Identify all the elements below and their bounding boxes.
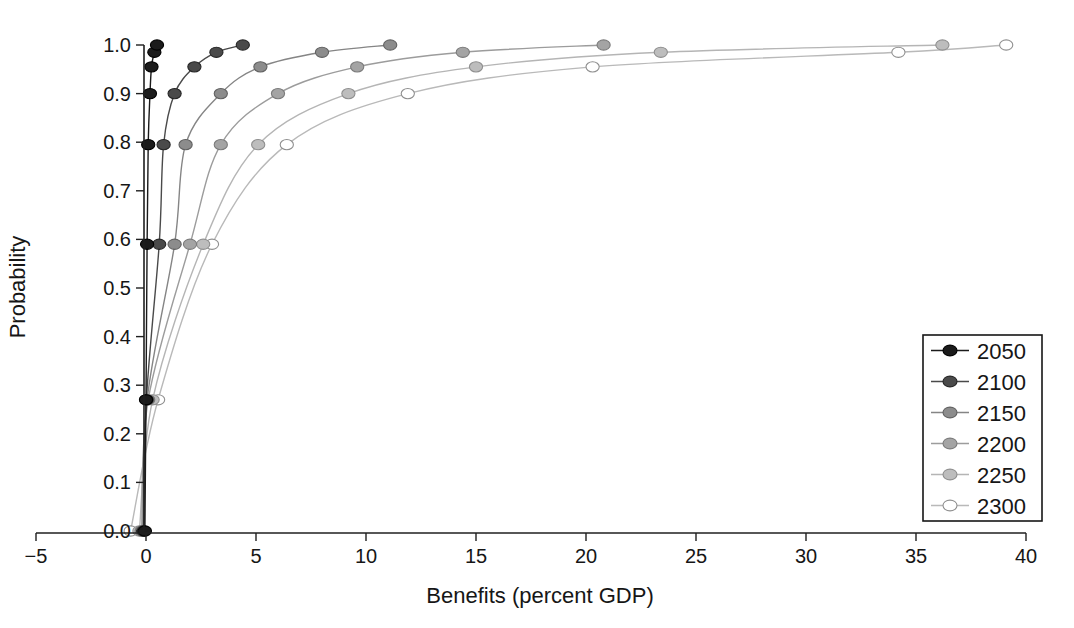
x-tick-label: 30 bbox=[795, 545, 817, 567]
series-marker-2200-p0.59 bbox=[183, 239, 196, 249]
legend-label: 2050 bbox=[977, 339, 1026, 364]
series-marker-2050-p0.955 bbox=[145, 62, 158, 72]
series-marker-2200-p0.985 bbox=[456, 47, 469, 57]
y-tick-label: 0.1 bbox=[103, 471, 131, 493]
legend-label: 2300 bbox=[977, 494, 1026, 519]
axis-layer: −505101520253035400.00.10.20.30.40.50.60… bbox=[25, 34, 1038, 567]
cdf-chart: −505101520253035400.00.10.20.30.40.50.60… bbox=[0, 0, 1074, 628]
series-marker-2200-p0.955 bbox=[351, 62, 364, 72]
series-marker-2250-p0.9 bbox=[342, 89, 355, 99]
series-marker-2200-p0.9 bbox=[271, 89, 284, 99]
series-marker-2150-p0.795 bbox=[179, 140, 192, 150]
y-tick-label: 0.3 bbox=[103, 374, 131, 396]
x-tick-label: 10 bbox=[355, 545, 377, 567]
series-marker-2250-p0.795 bbox=[252, 140, 265, 150]
legend-label: 2150 bbox=[977, 401, 1026, 426]
series-marker-2100-p0.985 bbox=[210, 47, 223, 57]
series-marker-2100-p0.795 bbox=[157, 140, 170, 150]
x-tick-label: 40 bbox=[1015, 545, 1037, 567]
y-tick-label: 0.0 bbox=[103, 520, 131, 542]
series-marker-2150-p0.59 bbox=[168, 239, 181, 249]
y-tick-label: 1.0 bbox=[103, 34, 131, 56]
x-tick-label: 25 bbox=[685, 545, 707, 567]
legend-box: 205021002150220022502300 bbox=[923, 335, 1042, 521]
legend-marker bbox=[943, 345, 957, 356]
x-tick-label: 15 bbox=[465, 545, 487, 567]
series-marker-2150-p1 bbox=[384, 40, 397, 50]
legend-marker bbox=[943, 500, 957, 511]
series-marker-2250-p0.59 bbox=[197, 239, 210, 249]
series-marker-2300-p0.985 bbox=[892, 47, 905, 57]
y-tick-label: 0.7 bbox=[103, 180, 131, 202]
series-marker-2100-p0.955 bbox=[188, 62, 201, 72]
series-marker-2250-p0.985 bbox=[654, 47, 667, 57]
y-tick-label: 0.2 bbox=[103, 423, 131, 445]
series-marker-2200-p1 bbox=[597, 40, 610, 50]
series-marker-2150-p0.9 bbox=[214, 89, 227, 99]
series-marker-2250-p0.955 bbox=[469, 62, 482, 72]
series-marker-2150-p0.955 bbox=[254, 62, 267, 72]
legend-marker bbox=[943, 376, 957, 387]
series-curve-2250 bbox=[139, 45, 942, 531]
series-curve-2300 bbox=[131, 45, 1007, 531]
x-axis-title: Benefits (percent GDP) bbox=[426, 583, 653, 608]
legend-label: 2250 bbox=[977, 463, 1026, 488]
series-marker-2200-p0.795 bbox=[214, 140, 227, 150]
series-curve-2200 bbox=[142, 45, 604, 531]
chart-figure: −505101520253035400.00.10.20.30.40.50.60… bbox=[0, 0, 1074, 628]
x-tick-label: 0 bbox=[140, 545, 151, 567]
y-tick-label: 0.9 bbox=[103, 83, 131, 105]
series-marker-2050-p0.9 bbox=[143, 89, 156, 99]
series-marker-2300-p0.795 bbox=[280, 140, 293, 150]
y-tick-label: 0.8 bbox=[103, 131, 131, 153]
series-marker-2050-p1 bbox=[150, 40, 163, 50]
series-marker-2300-p1 bbox=[1000, 40, 1013, 50]
legend-marker bbox=[943, 407, 957, 418]
series-marker-2300-p0.9 bbox=[401, 89, 414, 99]
legend-label: 2200 bbox=[977, 432, 1026, 457]
x-tick-label: −5 bbox=[25, 545, 48, 567]
y-axis-title: Probability bbox=[5, 236, 30, 339]
series-marker-2250-p1 bbox=[936, 40, 949, 50]
y-tick-label: 0.6 bbox=[103, 228, 131, 250]
legend-label: 2100 bbox=[977, 370, 1026, 395]
y-tick-label: 0.5 bbox=[103, 277, 131, 299]
series-marker-2150-p0.985 bbox=[315, 47, 328, 57]
x-tick-label: 5 bbox=[250, 545, 261, 567]
series-marker-2050-p0.27 bbox=[139, 395, 152, 405]
x-tick-label: 20 bbox=[575, 545, 597, 567]
series-marker-2100-p0.59 bbox=[153, 239, 166, 249]
series-marker-2100-p1 bbox=[236, 40, 249, 50]
y-tick-label: 0.4 bbox=[103, 326, 131, 348]
legend-marker bbox=[943, 438, 957, 449]
x-tick-label: 35 bbox=[905, 545, 927, 567]
series-marker-2100-p0.9 bbox=[168, 89, 181, 99]
series-marker-2050-p0.59 bbox=[141, 239, 154, 249]
series-curve-2150 bbox=[143, 45, 391, 531]
series-marker-2300-p0.955 bbox=[586, 62, 599, 72]
series-layer bbox=[124, 40, 1013, 536]
legend-marker bbox=[943, 469, 957, 480]
